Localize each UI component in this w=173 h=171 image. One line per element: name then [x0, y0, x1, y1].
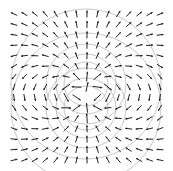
- arrow-head: [36, 128, 38, 130]
- contour-circle: [46, 44, 126, 124]
- arrow-head: [157, 148, 159, 150]
- arrow-head: [86, 103, 88, 105]
- contour-circle: [56, 54, 116, 114]
- arrow-head: [151, 44, 153, 46]
- arrow-head: [86, 42, 88, 44]
- arrow-head: [161, 44, 163, 46]
- arrow-head: [15, 148, 17, 150]
- arrow-head: [86, 72, 88, 74]
- arrow-head: [86, 146, 88, 148]
- vector-field-plot: [0, 0, 173, 171]
- arrow-head: [72, 86, 74, 88]
- arrow-head: [11, 44, 13, 46]
- arrow-head: [86, 11, 88, 13]
- arrow-head: [86, 136, 88, 138]
- arrow-head: [42, 65, 44, 67]
- arrow-head: [86, 31, 88, 33]
- contour-circle: [11, 9, 161, 159]
- contour-circle: [46, 68, 126, 148]
- arrow-head: [146, 138, 148, 140]
- arrow-head: [115, 117, 117, 119]
- arrow-head: [86, 63, 88, 65]
- arrow-head: [86, 52, 88, 54]
- arrow-head: [26, 138, 28, 140]
- arrow-head: [86, 125, 88, 127]
- arrow-head: [69, 107, 71, 109]
- arrow-head: [141, 55, 143, 57]
- arrow-head: [130, 65, 132, 67]
- arrow-head: [86, 21, 88, 23]
- arrow-head: [86, 157, 88, 159]
- arrow-head: [136, 128, 138, 130]
- field-arrows: [11, 11, 164, 164]
- contour-circle: [64, 62, 108, 106]
